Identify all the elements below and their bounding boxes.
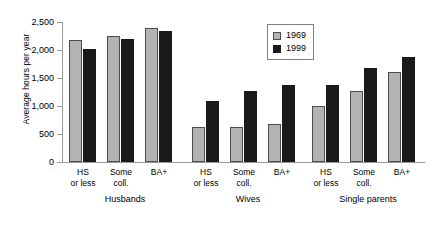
x-axis-category-label: BA+ [379,167,425,178]
y-axis-tick-label: 0 [0,158,54,167]
x-axis-category-label: BA+ [259,167,305,178]
bar-1999 [402,57,415,162]
bar-1969 [388,72,401,162]
bar-cluster [387,22,417,162]
y-axis-tick [57,134,62,135]
bar-1999 [326,85,339,162]
y-axis-tick-label: 2,500 [0,18,54,27]
y-axis-tick [57,106,62,107]
bar-cluster [349,22,379,162]
bar-cluster [229,22,259,162]
bar-group [68,22,182,162]
y-axis-tick [57,50,62,51]
y-axis-tick-label: 2,000 [0,46,54,55]
y-axis-tick-label: 500 [0,130,54,139]
bar-1999 [244,91,257,162]
legend-swatch-icon-1999 [273,45,281,53]
x-axis-category-label: BA+ [136,167,182,178]
bar-1969 [350,91,363,162]
bar-chart: Average hours per year 05001,0001,5002,0… [0,0,437,226]
bar-1999 [83,49,96,162]
bar-group [311,22,425,162]
bar-1969 [312,106,325,162]
bar-1969 [145,28,158,162]
bar-1969 [230,127,243,162]
bar-1999 [364,68,377,162]
bar-cluster [144,22,174,162]
y-axis-tick [57,78,62,79]
legend-item-1999: 1999 [273,42,306,55]
bar-1999 [159,31,172,162]
legend-label-1999: 1999 [286,44,306,53]
bar-1969 [107,36,120,162]
plot-area [63,22,425,162]
legend: 1969 1999 [267,24,314,60]
bar-cluster [68,22,98,162]
y-axis-tick-label: 1,000 [0,102,54,111]
bar-1969 [268,124,281,162]
bar-cluster [106,22,136,162]
bar-cluster [191,22,221,162]
bar-1999 [121,39,134,162]
y-axis-tick-label: 1,500 [0,74,54,83]
bar-1969 [69,40,82,162]
bar-1999 [282,85,295,162]
legend-label-1969: 1969 [286,31,306,40]
y-axis-tick [57,22,62,23]
x-axis-line [62,162,425,163]
y-axis-tick [57,162,62,163]
legend-item-1969: 1969 [273,29,306,42]
bar-1999 [206,101,219,162]
bar-cluster [311,22,341,162]
x-axis-group-label: Single parents [293,194,437,204]
bar-1969 [192,127,205,162]
legend-swatch-icon-1969 [273,32,281,40]
